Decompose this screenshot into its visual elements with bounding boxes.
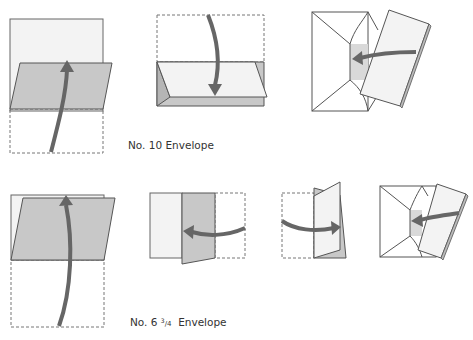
no10-step1-fold-up	[10, 19, 112, 153]
no10-envelope-label: No. 10 Envelope	[128, 139, 214, 151]
label-prefix: No. 6	[130, 316, 157, 328]
no10-step2-fold-down	[157, 15, 267, 106]
no6-envelope-label: No. 6 3/4 Envelope	[130, 316, 227, 328]
label-suffix: Envelope	[178, 316, 226, 328]
no6-step4-insert	[380, 184, 468, 260]
folding-diagram	[0, 0, 473, 340]
no6-step2-fold-left	[150, 193, 245, 264]
no6-step3-fold-right	[282, 182, 346, 258]
label-fraction: 3/4	[161, 320, 172, 328]
no6-step1-fold-up	[11, 195, 115, 327]
no10-step3-insert	[312, 10, 431, 111]
